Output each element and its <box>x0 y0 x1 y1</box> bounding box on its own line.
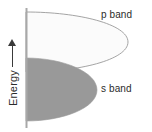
s-band-label: s band <box>101 83 132 95</box>
p-band-label: p band <box>101 9 132 21</box>
up-arrow-icon <box>7 37 19 67</box>
s-band-shape <box>26 58 97 121</box>
energy-axis-title: Energy <box>7 70 19 106</box>
band-diagram-figure: p band s band Energy <box>0 0 152 132</box>
arrow-head <box>8 39 16 46</box>
energy-axis-label-group: Energy <box>0 22 26 106</box>
